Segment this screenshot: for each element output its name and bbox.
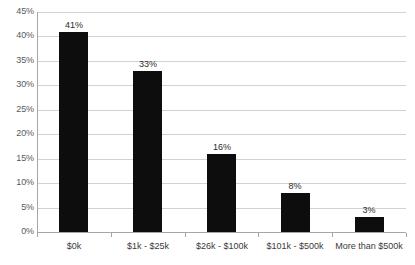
gridline: [37, 110, 406, 111]
gridline: [37, 36, 406, 37]
y-axis-tick-label: 40%: [2, 31, 34, 40]
bar: [59, 32, 88, 232]
bar-chart: 0%5%10%15%20%25%30%35%40%45% 41%33%16%8%…: [0, 0, 415, 265]
bar: [355, 217, 384, 232]
y-axis-line: [37, 12, 38, 233]
x-axis-category-label: $0k: [37, 241, 111, 252]
bar-value-label: 33%: [123, 60, 173, 69]
bar: [207, 154, 236, 232]
bar-value-label: 16%: [197, 143, 247, 152]
gridline: [37, 12, 406, 13]
bar-value-label: 8%: [270, 182, 320, 191]
y-axis-tick-label: 0%: [2, 227, 34, 236]
y-axis-tick-label: 5%: [2, 203, 34, 212]
x-axis-tick: [37, 233, 38, 237]
x-axis-tick: [185, 233, 186, 237]
y-axis-tick-label: 30%: [2, 80, 34, 89]
y-axis-tick-label: 25%: [2, 105, 34, 114]
bar-value-label: 41%: [49, 21, 99, 30]
y-axis-tick-label: 15%: [2, 154, 34, 163]
x-axis-tick: [406, 233, 407, 237]
bar: [133, 71, 162, 232]
y-axis-tick-label: 45%: [2, 7, 34, 16]
x-axis-tick: [332, 233, 333, 237]
x-axis-category-label: $26k - $100k: [185, 241, 259, 252]
gridline: [37, 85, 406, 86]
bar: [281, 193, 310, 232]
x-axis-category-label: $101k - $500k: [258, 241, 332, 252]
x-axis-tick: [111, 233, 112, 237]
gridline: [37, 134, 406, 135]
bar-value-label: 3%: [344, 206, 394, 215]
x-axis-category-label: $1k - $25k: [111, 241, 185, 252]
y-axis-tick-label: 35%: [2, 56, 34, 65]
x-axis-category-label: More than $500k: [332, 241, 406, 252]
x-axis-tick: [258, 233, 259, 237]
y-axis-tick-label: 20%: [2, 129, 34, 138]
gridline: [37, 61, 406, 62]
y-axis-tick-label: 10%: [2, 178, 34, 187]
